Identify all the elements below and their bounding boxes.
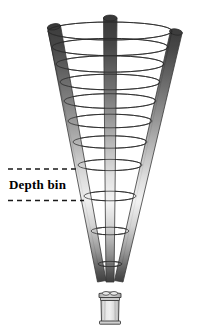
acoustic-beam-left [47, 23, 106, 282]
beam-center-body [104, 18, 118, 282]
diagram-canvas [0, 0, 209, 330]
beam-right-body [115, 31, 183, 282]
instrument-body [101, 300, 119, 322]
adcp-depth-bin-diagram: Depth bin [0, 0, 209, 330]
beam-center-cap [103, 15, 117, 21]
transducer-face-left [102, 292, 109, 296]
depth-bin-label: Depth bin [9, 177, 66, 193]
acoustic-beam-right [115, 28, 183, 282]
instrument-base [100, 321, 121, 324]
adcp-instrument [99, 292, 121, 325]
transducer-face-right [110, 292, 117, 296]
